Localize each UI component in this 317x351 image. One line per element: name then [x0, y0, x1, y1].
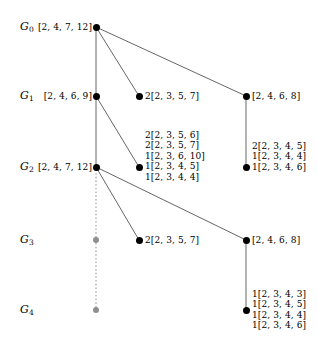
- g2-mid-label-line: 1[2, 3, 4, 4]: [145, 172, 205, 182]
- node-g2-mid[interactable]: [136, 164, 143, 171]
- node-g2-left[interactable]: [93, 164, 100, 171]
- level-label-g3: G3: [20, 234, 34, 247]
- node-label-g4-right: 1[2, 3, 4, 3]1[2, 3, 4, 5]1[2, 3, 4, 4]1…: [252, 289, 306, 331]
- node-g3-right[interactable]: [243, 237, 250, 244]
- g2-right-label-line: 1[2, 3, 4, 4]: [252, 151, 306, 161]
- g2-mid-label-line: 2[2, 3, 5, 7]: [145, 140, 205, 150]
- node-g3-mid[interactable]: [136, 237, 143, 244]
- g2-right-label-line: 2[2, 3, 4, 5]: [252, 141, 306, 151]
- node-g4-left[interactable]: [93, 307, 99, 313]
- node-label-g2-left: [2, 4, 7, 12]: [0, 162, 92, 172]
- node-label-g1-right: [2, 4, 6, 8]: [252, 91, 300, 101]
- level-label-g4: G4: [20, 304, 34, 317]
- lattice-diagram: G0 G1 G2 G3 G4 [2, 4, 7, 12] [2, 4, 6, 9…: [0, 0, 317, 351]
- node-label-g1-left: [2, 4, 6, 9]: [0, 91, 92, 101]
- node-label-g2-right: 2[2, 3, 4, 5]1[2, 3, 4, 4]1[2, 3, 4, 6]: [252, 141, 306, 172]
- node-g0-left[interactable]: [93, 24, 100, 31]
- node-label-g3-right: [2, 4, 6, 8]: [252, 235, 300, 245]
- g2-mid-label-line: 2[2, 3, 5, 6]: [145, 130, 205, 140]
- node-g4-right[interactable]: [243, 307, 250, 314]
- node-g3-left[interactable]: [93, 237, 99, 243]
- node-g2-right[interactable]: [243, 164, 250, 171]
- edge-g1left-g2mid: [96, 96, 139, 167]
- node-g1-right[interactable]: [243, 93, 250, 100]
- node-label-g1-mid: 2[2, 3, 5, 7]: [145, 91, 199, 101]
- node-g1-mid[interactable]: [136, 93, 143, 100]
- g2-right-label-line: 1[2, 3, 4, 6]: [252, 162, 306, 172]
- node-label-g3-mid: 2[2, 3, 5, 7]: [145, 235, 199, 245]
- node-label-g0-left: [2, 4, 7, 12]: [0, 22, 92, 32]
- g2-mid-label-line: 1[2, 3, 4, 5]: [145, 161, 205, 171]
- node-label-g2-mid: 2[2, 3, 5, 6]2[2, 3, 5, 7]1[2, 3, 6, 10]…: [145, 130, 205, 182]
- g2-mid-label-line: 1[2, 3, 6, 10]: [145, 151, 205, 161]
- g4-right-label-line: 1[2, 3, 4, 4]: [252, 310, 306, 320]
- g4-right-label-line: 1[2, 3, 4, 5]: [252, 299, 306, 309]
- g4-right-label-line: 1[2, 3, 4, 6]: [252, 320, 306, 330]
- g4-right-label-line: 1[2, 3, 4, 3]: [252, 289, 306, 299]
- node-g1-left[interactable]: [93, 93, 100, 100]
- edge-g0-g1right: [96, 27, 246, 96]
